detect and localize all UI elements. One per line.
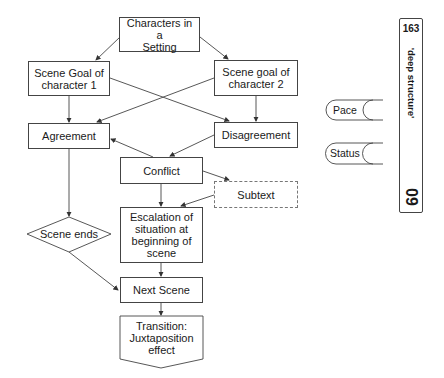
pace-tag: Pace xyxy=(333,104,357,116)
node-scene-goal-character-2: Scene goal of character 2 xyxy=(214,60,298,96)
node-next-scene: Next Scene xyxy=(120,277,203,303)
node-label: Next Scene xyxy=(133,284,190,296)
page-number: 163 xyxy=(400,23,422,34)
node-subtext: Subtext xyxy=(214,181,298,208)
chapter-title: 'deep structure' xyxy=(406,48,417,119)
node-label: Conflict xyxy=(143,165,180,177)
node-label: Characters in a Setting xyxy=(124,17,195,53)
node-label: Disagreement xyxy=(222,129,290,141)
chapter-number: 09 xyxy=(402,188,420,206)
node-label: Scene goal of character 2 xyxy=(222,66,289,90)
node-label: Subtext xyxy=(237,189,274,201)
node-characters-in-setting: Characters in a Setting xyxy=(119,17,200,52)
node-escalation: Escalation of situation at beginning of … xyxy=(120,207,203,263)
node-agreement: Agreement xyxy=(28,123,110,149)
chapter-tab: 163 'deep structure' 09 xyxy=(399,18,423,213)
node-conflict: Conflict xyxy=(120,157,203,184)
node-disagreement: Disagreement xyxy=(214,122,298,148)
node-label: Scene Goal of character 1 xyxy=(34,67,104,91)
node-scene-ends: Scene ends xyxy=(27,228,111,240)
node-label: Escalation of situation at beginning of … xyxy=(130,211,193,259)
node-scene-goal-character-1: Scene Goal of character 1 xyxy=(28,61,110,96)
node-label: Agreement xyxy=(42,130,96,142)
status-tag: Status xyxy=(330,147,360,159)
node-transition: Transition: Juxtaposition effect xyxy=(120,320,203,356)
